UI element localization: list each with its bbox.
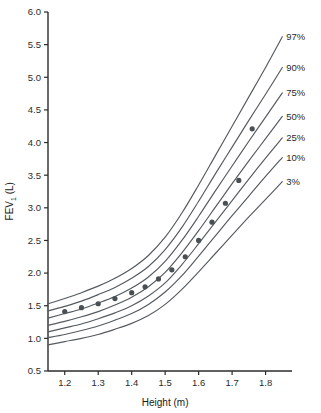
y-axis-tick-label: 5.0 <box>28 72 41 83</box>
data-point <box>169 267 174 272</box>
data-point <box>112 296 117 301</box>
y-axis-tick-label: 1.5 <box>28 300 41 311</box>
x-axis-tick-label: 1.5 <box>159 377 172 388</box>
percentile-label-10pct: 10% <box>286 152 306 163</box>
data-point <box>129 290 134 295</box>
data-point <box>79 305 84 310</box>
percentile-label-50pct: 50% <box>286 111 306 122</box>
data-point <box>250 126 255 131</box>
percentile-label-75pct: 75% <box>286 87 306 98</box>
x-axis-tick-label: 1.7 <box>225 377 238 388</box>
data-point <box>236 178 241 183</box>
fev1-height-percentile-chart: 0.51.01.52.02.53.03.54.04.55.05.56.0 1.2… <box>0 0 321 413</box>
x-axis-tick-label: 1.8 <box>259 377 272 388</box>
y-axis-tick-label: 2.0 <box>28 267 41 278</box>
y-axis-tick-label: 4.5 <box>28 104 41 115</box>
data-point <box>223 201 228 206</box>
x-axis-tick-label: 1.4 <box>125 377 138 388</box>
y-axis-tick-label: 5.5 <box>28 39 41 50</box>
x-axis-tick-label: 1.6 <box>192 377 205 388</box>
y-axis-tick-label: 3.0 <box>28 202 41 213</box>
x-axis-tick-label: 1.3 <box>92 377 105 388</box>
y-axis-tick-label: 6.0 <box>28 6 41 17</box>
x-axis-title: Height (m) <box>142 397 189 408</box>
y-axis-tick-label: 4.0 <box>28 137 41 148</box>
y-axis-tick-label: 3.5 <box>28 170 41 181</box>
data-point <box>96 301 101 306</box>
percentile-label-90pct: 90% <box>286 62 306 73</box>
data-point <box>183 254 188 259</box>
data-point <box>142 284 147 289</box>
data-point <box>196 238 201 243</box>
data-point <box>209 220 214 225</box>
x-axis-tick-label: 1.2 <box>58 377 71 388</box>
data-point <box>62 309 67 314</box>
chart-container: 0.51.01.52.02.53.03.54.04.55.05.56.0 1.2… <box>0 0 321 413</box>
y-axis-tick-label: 2.5 <box>28 235 41 246</box>
percentile-label-25pct: 25% <box>286 132 306 143</box>
data-point <box>156 276 161 281</box>
percentile-label-97pct: 97% <box>286 31 306 42</box>
y-axis-tick-label: 1.0 <box>28 333 41 344</box>
percentile-label-3pct: 3% <box>286 176 300 187</box>
y-axis-title: FEV1 (L) <box>4 182 17 220</box>
y-axis-tick-label: 0.5 <box>28 365 41 376</box>
